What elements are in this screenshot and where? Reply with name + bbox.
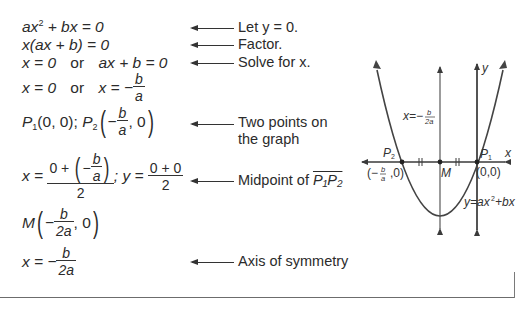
origin-label: (0,0) bbox=[476, 165, 501, 179]
point-p2 bbox=[400, 160, 405, 165]
svg-text:a: a bbox=[381, 174, 385, 183]
axis-label: x=− bbox=[402, 109, 423, 123]
bottom-rule bbox=[0, 297, 515, 298]
svg-text:b: b bbox=[427, 108, 431, 117]
point-m bbox=[438, 160, 443, 165]
arrow-icon bbox=[373, 60, 381, 69]
m-label: M bbox=[441, 166, 451, 180]
x-axis-label: x bbox=[504, 146, 512, 160]
svg-text:(−: (− bbox=[367, 166, 378, 180]
svg-text:2: 2 bbox=[391, 153, 395, 160]
y-axis-label: y bbox=[481, 61, 489, 75]
svg-text:+bx: +bx bbox=[495, 195, 516, 209]
svg-text:2a: 2a bbox=[424, 117, 433, 126]
svg-text:,0): ,0) bbox=[390, 166, 404, 180]
right-rule bbox=[514, 272, 515, 298]
parabola-graph: y x P 2 P 1 M (0,0) (− b a ,0) x=− b 2a … bbox=[0, 0, 530, 309]
p2-label: P bbox=[383, 146, 391, 160]
arrow-icon bbox=[499, 60, 507, 69]
svg-text:b: b bbox=[381, 165, 385, 174]
curve-label: y=ax bbox=[463, 195, 491, 209]
point-p1 bbox=[475, 160, 480, 165]
p1-label: P bbox=[480, 147, 488, 161]
svg-text:1: 1 bbox=[488, 154, 492, 161]
